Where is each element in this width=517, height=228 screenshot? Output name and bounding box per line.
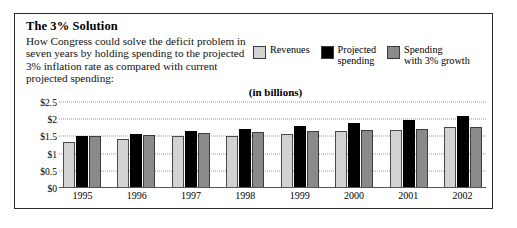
- bar-group: [390, 102, 428, 188]
- legend-item-revenues: Revenues: [253, 45, 310, 59]
- bar: [390, 130, 402, 188]
- bar: [403, 120, 415, 188]
- x-axis-tick-label: 2001: [389, 190, 428, 206]
- bar: [130, 134, 142, 188]
- bar-groups: [59, 102, 486, 188]
- x-axis-tick-label: 1998: [226, 190, 265, 206]
- legend-swatch-icon: [253, 46, 266, 59]
- bar: [185, 131, 197, 188]
- y-axis-tick-label: $2.5: [40, 97, 57, 108]
- bar: [89, 136, 101, 188]
- bar: [348, 123, 360, 188]
- bar: [470, 127, 482, 188]
- bar: [143, 135, 155, 188]
- bar: [335, 131, 347, 188]
- chart-plot-area: $2.5$2$1.5$1$0.5$0 199519961997199819992…: [15, 102, 492, 210]
- bar: [307, 131, 319, 188]
- y-axis-tick-label: $1: [47, 148, 57, 159]
- y-axis-tick-label: $0: [47, 183, 57, 194]
- bar-group: [172, 102, 210, 188]
- bar: [252, 132, 264, 188]
- bar: [226, 136, 238, 188]
- bar-group: [226, 102, 264, 188]
- chart-units-caption: (in billions): [15, 86, 492, 98]
- legend-item-spending-with-growth: Spending with 3% growth: [387, 45, 470, 66]
- x-axis-tick-label: 2000: [334, 190, 373, 206]
- legend-label: Spending with 3% growth: [404, 45, 470, 66]
- bar: [117, 139, 129, 188]
- x-axis-tick-label: 1999: [280, 190, 319, 206]
- x-axis-line: [59, 187, 486, 188]
- bar: [281, 134, 293, 188]
- plot-canvas: [59, 102, 486, 188]
- chart-header: The 3% Solution How Congress could solve…: [15, 14, 492, 86]
- chart-legend: Revenues Projected spending Spending wit…: [253, 45, 470, 66]
- chart-figure: The 3% Solution How Congress could solve…: [14, 13, 493, 209]
- bar-group: [281, 102, 319, 188]
- bar: [198, 133, 210, 188]
- bar: [63, 142, 75, 188]
- bar: [239, 129, 251, 188]
- bar: [294, 126, 306, 188]
- y-axis-tick-label: $2: [47, 114, 57, 125]
- x-axis-tick-label: 1997: [172, 190, 211, 206]
- bar: [457, 116, 469, 188]
- chart-title: The 3% Solution: [26, 19, 118, 34]
- y-axis-tick-label: $1.5: [40, 131, 57, 142]
- bar-group: [117, 102, 155, 188]
- x-axis-tick-label: 2002: [443, 190, 482, 206]
- legend-swatch-icon: [387, 46, 400, 59]
- bar-group: [63, 102, 101, 188]
- x-axis-labels: 19951996199719981999200020012002: [59, 190, 486, 206]
- bar: [172, 136, 184, 188]
- y-axis-labels: $2.5$2$1.5$1$0.5$0: [23, 102, 57, 188]
- y-axis-tick-label: $0.5: [40, 165, 57, 176]
- x-axis-tick-label: 1995: [63, 190, 102, 206]
- bar-group: [335, 102, 373, 188]
- legend-item-projected-spending: Projected spending: [321, 45, 376, 66]
- x-axis-tick-label: 1996: [117, 190, 156, 206]
- bar: [444, 127, 456, 188]
- bar: [416, 129, 428, 189]
- bar-group: [444, 102, 482, 188]
- chart-subtitle: How Congress could solve the deficit pro…: [26, 35, 254, 85]
- legend-label: Revenues: [270, 45, 310, 56]
- bar: [76, 136, 88, 188]
- legend-swatch-icon: [321, 46, 334, 59]
- bar: [361, 130, 373, 188]
- legend-label: Projected spending: [338, 45, 376, 66]
